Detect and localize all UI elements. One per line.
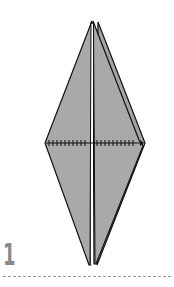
dashed-divider (3, 276, 171, 277)
origami-diagram (0, 0, 174, 287)
step-number: 1 (3, 240, 16, 270)
